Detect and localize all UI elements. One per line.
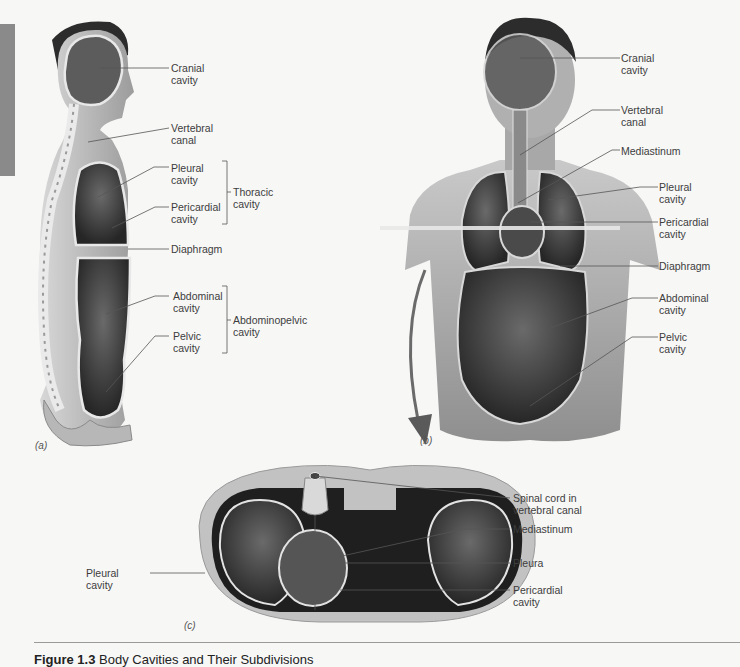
label-b-pericardial-cavity: Pericardial cavity [659, 216, 709, 240]
label-a-vertebral-canal: Vertebral canal [171, 122, 213, 146]
label-a-pericardial-cavity: Pericardial cavity [171, 201, 221, 225]
label-a-abdominopelvic-cavity: Abdominopelvic cavity [233, 314, 307, 338]
figure-number: Figure 1.3 [34, 652, 95, 667]
label-a-thoracic-cavity: Thoracic cavity [233, 186, 273, 210]
label-a-pleural-cavity: Pleural cavity [171, 162, 204, 186]
figure-title: Body Cavities and Their Subdivisions [99, 652, 313, 667]
label-b-pleural-cavity: Pleural cavity [659, 181, 692, 205]
label-b-cranial-cavity: Cranial cavity [621, 52, 654, 76]
label-a-pelvic-cavity: Pelvic cavity [173, 330, 201, 354]
panel-a-tag: (a) [35, 440, 47, 451]
label-b-mediastinum: Mediastinum [621, 145, 681, 157]
panel-b-figure [380, 18, 660, 441]
label-c-pericardial-cavity: Pericardial cavity [513, 584, 563, 608]
panel-c-tag: (c) [184, 620, 196, 631]
label-b-pelvic-cavity: Pelvic cavity [659, 331, 687, 355]
panel-b-tag: (b) [420, 435, 432, 446]
label-b-abdominal-cavity: Abdominal cavity [659, 292, 709, 316]
label-b-diaphragm: Diaphragm [659, 260, 710, 272]
label-b-vertebral-canal: Vertebral canal [621, 104, 663, 128]
label-a-abdominal-cavity: Abdominal cavity [173, 290, 223, 314]
caption-divider [34, 642, 740, 643]
figure-caption: Figure 1.3 Body Cavities and Their Subdi… [34, 652, 313, 667]
label-c-spinal-cord: Spinal cord in vertebral canal [513, 492, 582, 516]
panel-a-figure [39, 21, 134, 445]
panel-c-figure [199, 465, 535, 622]
label-a-diaphragm: Diaphragm [171, 243, 222, 255]
label-c-pleural-cavity: Pleural cavity [86, 567, 119, 591]
label-c-mediastinum: Mediastinum [513, 523, 573, 535]
label-a-cranial-cavity: Cranial cavity [171, 62, 204, 86]
label-c-pleura: Pleura [513, 557, 543, 569]
